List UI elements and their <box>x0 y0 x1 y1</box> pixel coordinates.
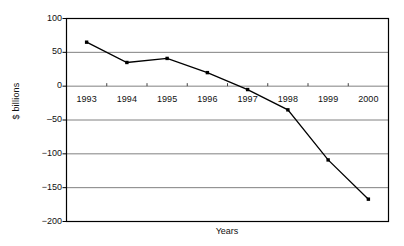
data-point-marker <box>85 40 88 43</box>
data-point-marker <box>246 88 249 91</box>
data-point-marker <box>125 61 128 64</box>
plot-area <box>0 0 404 246</box>
gridlines <box>67 52 389 187</box>
data-line <box>87 42 369 199</box>
data-point-marker <box>326 158 329 161</box>
data-markers <box>85 40 370 200</box>
data-point-marker <box>367 197 370 200</box>
data-point-marker <box>206 71 209 74</box>
data-point-marker <box>286 108 289 111</box>
chart-figure: $ billions Years 100500‒50−100−150−200 1… <box>0 0 404 246</box>
data-point-marker <box>165 57 168 60</box>
